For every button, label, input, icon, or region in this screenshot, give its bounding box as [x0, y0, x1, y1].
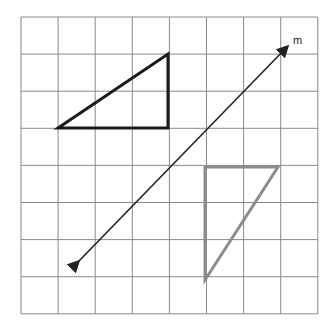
reflected-triangle	[205, 167, 278, 280]
line-of-reflection-m	[78, 47, 287, 262]
line-m-label: m	[293, 34, 302, 46]
reflection-diagram	[0, 0, 326, 330]
